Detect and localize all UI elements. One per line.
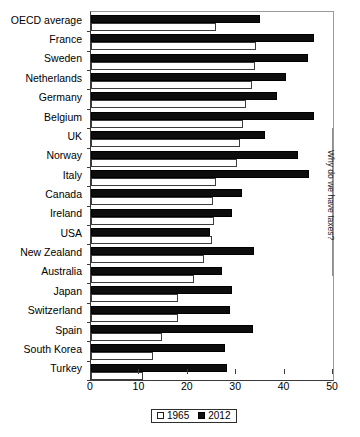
category-label: Switzerland [28, 305, 82, 316]
bar-2012 [91, 344, 225, 352]
x-axis-tick-label: 10 [123, 380, 153, 392]
category-label: Norway [46, 150, 82, 161]
x-axis-tick-label: 20 [172, 380, 202, 392]
bar-2012 [91, 170, 309, 178]
bar-1965 [91, 275, 194, 283]
bar-2012 [91, 267, 222, 275]
bar-2012 [91, 247, 254, 255]
bar-1965 [91, 81, 252, 89]
y-axis-tick [87, 148, 91, 149]
bar-group [91, 206, 333, 225]
bar-2012 [91, 209, 232, 217]
bar-1965 [91, 42, 256, 50]
x-axis-tick-label: 30 [220, 380, 250, 392]
y-axis-tick [87, 70, 91, 71]
bar-group [91, 341, 333, 360]
tax-revenue-bar-chart: OECD averageFranceSwedenNetherlandsGerma… [0, 0, 360, 437]
x-axis-tick-label: 50 [317, 380, 347, 392]
bar-group [91, 322, 333, 341]
bar-1965 [91, 159, 237, 167]
x-axis-tick-label: 0 [75, 380, 105, 392]
y-axis-tick [87, 303, 91, 304]
category-label: Netherlands [25, 73, 82, 84]
y-axis-tick [87, 244, 91, 245]
y-axis-tick [87, 322, 91, 323]
legend-label: 2012 [208, 411, 230, 421]
category-label: USA [60, 228, 82, 239]
bar-2012 [91, 286, 232, 294]
bar-2012 [91, 364, 227, 372]
bar-1965 [91, 217, 214, 225]
y-axis-tick [87, 186, 91, 187]
bar-1965 [91, 139, 240, 147]
bar-2012 [91, 151, 298, 159]
bar-2012 [91, 228, 210, 236]
bar-2012 [91, 189, 242, 197]
bar-group [91, 148, 333, 167]
legend-label: 1965 [167, 411, 189, 421]
legend-entry: 1965 [157, 411, 189, 421]
category-label: New Zealand [20, 247, 82, 258]
x-axis-tick [90, 369, 91, 374]
bar-1965 [91, 120, 243, 128]
y-axis-tick [87, 361, 91, 362]
category-label: Spain [55, 325, 82, 336]
category-label: OECD average [11, 15, 82, 26]
bar-2012 [91, 73, 286, 81]
category-label: UK [67, 131, 82, 142]
x-axis-tick [187, 369, 188, 374]
bar-1965 [91, 100, 246, 108]
category-label: Italy [63, 170, 82, 181]
bar-group [91, 89, 333, 108]
bar-1965 [91, 314, 178, 322]
y-axis-tick [87, 283, 91, 284]
bar-group [91, 283, 333, 302]
bar-2012 [91, 112, 314, 120]
y-axis-tick [87, 341, 91, 342]
category-label: Turkey [50, 363, 82, 374]
bar-2012 [91, 325, 253, 333]
bar-group [91, 264, 333, 283]
category-label: Belgium [44, 112, 82, 123]
category-label: South Korea [24, 344, 82, 355]
y-axis-tick [87, 225, 91, 226]
category-label: Australia [41, 266, 82, 277]
category-label: Sweden [44, 53, 82, 64]
bar-2012 [91, 92, 277, 100]
category-label: France [49, 34, 82, 45]
bar-2012 [91, 15, 260, 23]
bar-1965 [91, 352, 153, 360]
bar-1965 [91, 23, 216, 31]
chart-legend: 19652012 [151, 409, 237, 423]
bar-1965 [91, 197, 213, 205]
y-axis-tick [87, 51, 91, 52]
side-caption: Why do we have taxes? [326, 150, 336, 280]
bar-1965 [91, 372, 143, 380]
bar-1965 [91, 333, 162, 341]
y-axis-tick [87, 206, 91, 207]
category-label: Germany [39, 92, 82, 103]
category-label: Ireland [50, 208, 82, 219]
x-axis-tick [284, 369, 285, 374]
bar-1965 [91, 62, 255, 70]
legend-swatch-icon [198, 412, 205, 419]
bar-group [91, 361, 333, 380]
bar-2012 [91, 306, 230, 314]
bar-1965 [91, 255, 204, 263]
bar-group [91, 109, 333, 128]
y-axis-tick [87, 128, 91, 129]
bar-group [91, 225, 333, 244]
plot-area [90, 11, 334, 381]
category-label: Canada [45, 189, 82, 200]
bar-2012 [91, 34, 314, 42]
bar-group [91, 167, 333, 186]
bar-1965 [91, 236, 212, 244]
bar-group [91, 12, 333, 31]
bar-group [91, 31, 333, 50]
legend-swatch-icon [157, 412, 164, 419]
x-axis-tick [332, 369, 333, 374]
bar-group [91, 70, 333, 89]
x-axis-tick-label: 40 [269, 380, 299, 392]
y-axis-tick [87, 31, 91, 32]
y-axis-tick [87, 109, 91, 110]
